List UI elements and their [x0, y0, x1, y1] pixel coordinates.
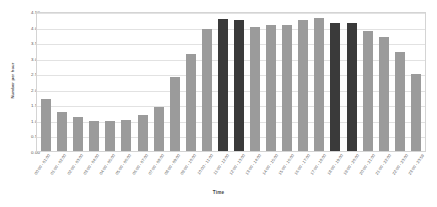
- bar: [186, 54, 196, 151]
- x-tick-label: 13:00 - 14:00: [244, 153, 262, 176]
- x-tick-label: 09:00 - 10:00: [179, 153, 197, 176]
- bar-series: [37, 13, 425, 151]
- bar: [379, 37, 389, 151]
- bar: [170, 77, 180, 151]
- bar: [121, 120, 131, 151]
- bar: [266, 25, 276, 151]
- bar: [314, 18, 324, 151]
- bar: [202, 29, 212, 151]
- bar: [41, 99, 51, 151]
- bar: [138, 115, 148, 151]
- x-axis-tick-labels: 00:00 - 01:0001:00 - 02:0002:00 - 03:000…: [36, 153, 426, 185]
- x-tick-label: 01:00 - 02:00: [49, 153, 67, 176]
- bar: [282, 25, 292, 151]
- bar: [347, 23, 357, 151]
- bar: [395, 52, 405, 151]
- bar: [411, 74, 421, 151]
- x-tick-label: 17:00 - 18:00: [309, 153, 327, 176]
- bar: [73, 117, 83, 151]
- bar-chart: Number per hour 0.000.501.001.502.002.50…: [0, 0, 437, 207]
- y-axis-title: Number per hour: [10, 36, 15, 126]
- x-axis-title: Time: [0, 190, 437, 195]
- bar: [250, 27, 260, 151]
- bar: [105, 121, 115, 151]
- bar: [234, 20, 244, 151]
- bar: [298, 20, 308, 151]
- bar: [154, 107, 164, 151]
- bar: [89, 121, 99, 151]
- bar: [218, 19, 228, 151]
- x-tick-label: 23:00 - 23:59: [407, 153, 425, 176]
- bar: [363, 31, 373, 151]
- plot-area: [36, 12, 426, 152]
- bar: [330, 23, 340, 151]
- bar: [57, 112, 67, 151]
- x-tick-label: 05:00 - 06:00: [114, 153, 132, 176]
- x-tick-label: 21:00 - 22:00: [374, 153, 392, 176]
